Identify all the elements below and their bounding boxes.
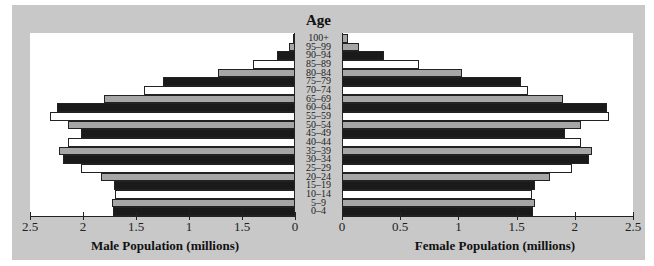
male-bar <box>144 86 295 95</box>
female-bar <box>342 43 359 52</box>
female-tick-label: 1 <box>443 219 473 235</box>
male-tick-label: 1 <box>174 219 204 235</box>
male-axis-title: Male Population (millions) <box>60 238 270 254</box>
male-bar <box>59 147 295 156</box>
female-bar <box>342 86 528 95</box>
female-bar <box>342 60 419 69</box>
male-bar <box>63 155 295 164</box>
female-bar <box>342 138 581 147</box>
female-bar <box>342 77 521 86</box>
female-zero-line <box>342 33 343 217</box>
female-tick-label: 2 <box>560 219 590 235</box>
male-bar <box>163 77 296 86</box>
male-bar <box>81 164 295 173</box>
female-bar <box>342 121 581 130</box>
male-tick-label: 2 <box>68 219 98 235</box>
female-tick-label: 1.5 <box>502 219 532 235</box>
female-bar <box>342 190 532 199</box>
female-bar <box>342 207 533 216</box>
male-bar <box>57 103 296 112</box>
male-tick-label: 1.5 <box>121 219 151 235</box>
male-tick-label: 2.5 <box>15 219 45 235</box>
female-bar <box>342 164 572 173</box>
male-bar <box>101 173 295 182</box>
male-x-axis <box>30 216 295 217</box>
female-tick-label: 0.5 <box>385 219 415 235</box>
female-x-axis <box>342 216 633 217</box>
male-bar <box>112 199 295 208</box>
female-bar <box>342 112 609 121</box>
female-bar <box>342 147 592 156</box>
female-tick-label: 0 <box>327 219 357 235</box>
female-bar <box>342 103 607 112</box>
female-bar <box>342 51 384 60</box>
female-tick-label: 2.5 <box>618 219 648 235</box>
male-bar <box>253 60 295 69</box>
male-bar <box>277 51 295 60</box>
male-tick-label: 1.5 <box>227 219 257 235</box>
male-zero-line <box>294 33 295 217</box>
male-bar <box>218 69 295 78</box>
male-bar <box>81 129 295 138</box>
male-bar <box>114 181 295 190</box>
male-bar <box>68 121 295 130</box>
age-group-label: 0–4 <box>295 207 342 216</box>
female-bar <box>342 199 535 208</box>
male-bar <box>113 207 295 216</box>
age-axis-title: Age <box>295 12 342 29</box>
male-bar <box>115 190 295 199</box>
female-bar <box>342 69 462 78</box>
male-tick-label: 0 <box>280 219 310 235</box>
male-bar <box>50 112 295 121</box>
female-bar <box>342 181 535 190</box>
female-bar <box>342 155 589 164</box>
male-bar <box>68 138 295 147</box>
female-bar <box>342 173 550 182</box>
female-bar <box>342 129 565 138</box>
male-bar <box>104 95 295 104</box>
female-axis-title: Female Population (millions) <box>380 238 610 254</box>
female-bar <box>342 95 563 104</box>
